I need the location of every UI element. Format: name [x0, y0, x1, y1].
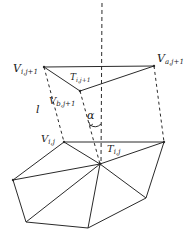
label-v-a-j1: Va,j+1 [157, 52, 184, 66]
alpha-arc-arrowhead [89, 122, 93, 126]
lower-mesh [13, 142, 164, 228]
diagram-canvas: Vi,j+1 Va,j+1 Ti,j+1 Vb,j+1 l α Vi,j Ti,… [0, 0, 194, 230]
projection-line-a [154, 66, 164, 142]
upper-triangle [44, 66, 154, 91]
label-v-i-j: Vi,j [41, 133, 56, 146]
label-alpha: α [87, 109, 95, 122]
label-v-i-j1: Vi,j+1 [13, 62, 38, 76]
label-l: l [36, 103, 40, 116]
alpha-angle-arc [90, 124, 101, 127]
label-t-i-j: Ti,j [107, 143, 121, 156]
label-v-b-j1: Vb,j+1 [49, 95, 75, 108]
label-t-i-j1: Ti,j+1 [70, 72, 91, 84]
